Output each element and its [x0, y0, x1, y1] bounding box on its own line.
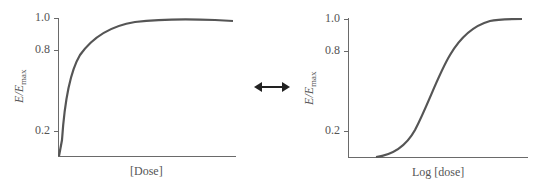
left-ytick-0-2: 0.2 [20, 123, 50, 138]
left-y-axis-label: E/Emax [12, 69, 28, 103]
right-ytick-0-8: 0.8 [310, 43, 340, 58]
left-chart-curve [59, 19, 233, 156]
charts-canvas [0, 0, 538, 189]
double-arrow-icon [254, 82, 290, 92]
right-ytick-1-0: 1.0 [310, 11, 340, 26]
left-x-axis-label: [Dose] [130, 164, 163, 179]
left-ytick-1-0: 1.0 [20, 10, 50, 25]
right-chart-curve [376, 19, 522, 157]
right-y-axis-label: E/Emax [302, 71, 318, 105]
right-x-axis-label: Log [dose] [412, 165, 464, 180]
left-chart-axes [54, 18, 236, 157]
right-ytick-0-2: 0.2 [310, 123, 340, 138]
right-chart-axes [344, 18, 528, 158]
left-ytick-0-8: 0.8 [20, 42, 50, 57]
